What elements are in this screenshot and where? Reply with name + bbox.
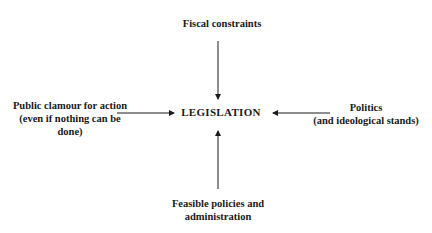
label-politics: Politics (and ideological stands) — [300, 101, 432, 127]
label-line: Feasible policies and — [118, 197, 318, 210]
label-line: (even if nothing can be — [0, 112, 140, 125]
label-line: done) — [0, 125, 140, 138]
label-public-clamour: Public clamour for action (even if nothi… — [0, 99, 140, 138]
label-feasible-policies: Feasible policies and administration — [118, 197, 318, 223]
label-line: administration — [118, 210, 318, 223]
label-line: Public clamour for action — [0, 99, 140, 112]
label-line: Fiscal constraints — [122, 17, 322, 30]
label-line: Politics — [300, 101, 432, 114]
label-line: (and ideological stands) — [300, 114, 432, 127]
label-legislation: LEGISLATION — [171, 106, 271, 119]
diagram-canvas: Fiscal constraints LEGISLATION Public cl… — [0, 0, 432, 233]
label-fiscal-constraints: Fiscal constraints — [122, 17, 322, 30]
